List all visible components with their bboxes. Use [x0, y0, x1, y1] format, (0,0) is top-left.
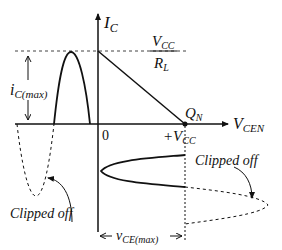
- origin-label: 0: [102, 128, 109, 143]
- q-point-dot: [183, 122, 188, 127]
- clipped-off-arrow-right: [234, 167, 252, 198]
- y-axis-label: IC: [103, 13, 119, 35]
- voltage-waveform-clipped-half: [185, 187, 268, 224]
- load-line-diagram: IC VCEN 0 VCC RL QN +VCC iC(max) Clipped…: [0, 0, 282, 250]
- clipped-off-label-left: Clipped off: [10, 206, 75, 221]
- q-point-label: QN: [185, 105, 204, 123]
- vcemax-label: vCE(max): [116, 228, 159, 246]
- current-waveform-positive-half: [54, 52, 90, 124]
- clipped-off-label-right: Clipped off: [195, 153, 260, 168]
- vcc-over-rl-label: VCC RL: [150, 33, 177, 73]
- x-axis-label: VCEN: [233, 115, 265, 134]
- svg-text:RL: RL: [153, 55, 169, 73]
- load-line: [98, 51, 185, 124]
- icmax-label: iC(max): [10, 81, 48, 101]
- current-waveform-clipped-half: [17, 124, 54, 196]
- svg-text:VCC: VCC: [152, 33, 175, 51]
- voltage-waveform-positive-half: [101, 155, 185, 187]
- vcc-label: +VCC: [163, 128, 196, 146]
